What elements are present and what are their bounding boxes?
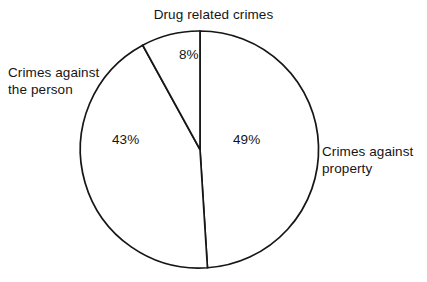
slice-value-crimes-against-the-person: 43% [112, 131, 139, 148]
slice-value-drug-related-crimes: 8% [179, 46, 199, 63]
pie-chart-graphic [0, 0, 427, 282]
slice-value-crimes-against-property: 49% [233, 131, 260, 148]
slice-label-crimes-against-the-person: Crimes against the person [8, 64, 99, 98]
slice-label-crimes-against-property: Crimes against property [322, 143, 413, 177]
pie-chart-figure: Drug related crimes Crimes against the p… [0, 0, 427, 282]
chart-title: Drug related crimes [0, 6, 427, 23]
pie-slice-crimes-against-property[interactable] [200, 31, 319, 268]
